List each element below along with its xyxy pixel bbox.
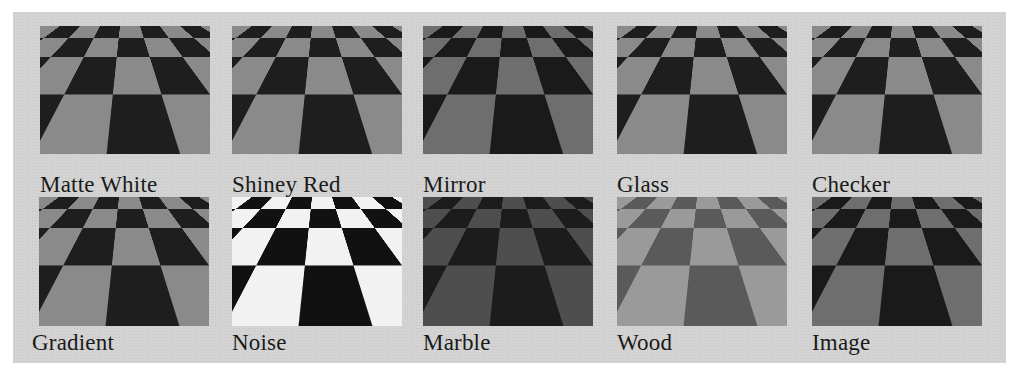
gradient-sphere: [79, 213, 175, 309]
label-gradient: Gradient: [32, 330, 114, 356]
render-glass: [617, 26, 787, 154]
noise-sphere: [270, 213, 366, 311]
render-marble: [423, 197, 593, 326]
marble-sphere: [461, 211, 557, 311]
render-gradient: [39, 197, 209, 326]
render-noise: [232, 197, 402, 326]
label-checker: Checker: [812, 172, 890, 198]
material-samples-panel: Matte White Shiney Red Mirror Glass: [13, 12, 1006, 363]
render-matte-white: [40, 26, 210, 154]
render-checker: [812, 26, 982, 154]
glass-sphere: [657, 44, 753, 136]
matte-white-sphere: [78, 41, 166, 135]
label-matte-white: Matte White: [40, 172, 157, 198]
render-image: [812, 197, 982, 326]
mirror-sphere: [463, 44, 559, 144]
wood-sphere: [659, 217, 751, 309]
label-mirror: Mirror: [423, 172, 486, 198]
label-glass: Glass: [617, 172, 669, 198]
checker-sphere: [850, 40, 948, 140]
label-image: Image: [812, 330, 870, 356]
render-shiney-red: [232, 26, 402, 154]
image-mapped-sphere: [850, 213, 948, 309]
render-wood: [617, 197, 787, 326]
label-wood: Wood: [617, 330, 672, 356]
label-shiney-red: Shiney Red: [232, 172, 341, 198]
render-mirror: [423, 26, 593, 154]
shiney-red-sphere: [272, 38, 368, 138]
label-noise: Noise: [232, 330, 287, 356]
label-marble: Marble: [423, 330, 491, 356]
